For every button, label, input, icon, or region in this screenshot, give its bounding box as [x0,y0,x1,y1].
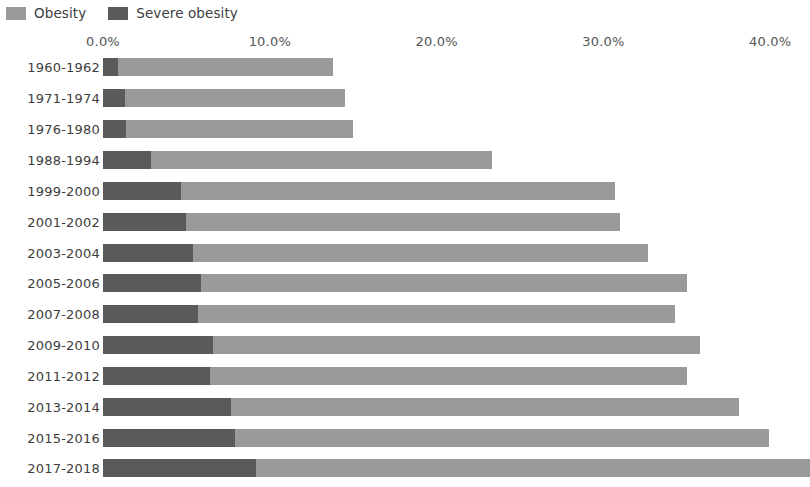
y-axis-category-label: 2013-2014 [27,399,100,414]
stacked-bar[interactable] [103,274,687,292]
y-axis-category-label: 1988-1994 [27,152,100,167]
legend-label: Obesity [34,5,86,21]
bar-segment-obesity[interactable] [103,151,492,169]
legend-entry[interactable]: Obesity [6,5,86,21]
chart-row: 2007-2008 [0,299,792,330]
x-axis-tick-label: 20.0% [415,34,457,49]
y-axis-category-label: 2017-2018 [27,461,100,476]
x-axis-tick-label: 40.0% [749,34,791,49]
chart-legend: ObesitySevere obesity [6,3,238,23]
stacked-bar[interactable] [103,305,675,323]
bar-segment-severe-obesity[interactable] [103,336,213,354]
y-axis-category-label: 2005-2006 [27,276,100,291]
y-axis-category-label: 2009-2010 [27,338,100,353]
legend-entry[interactable]: Severe obesity [108,5,238,21]
stacked-bar[interactable] [103,429,769,447]
stacked-bar[interactable] [103,151,492,169]
stacked-bar[interactable] [103,398,739,416]
chart-row: 2017-2018 [0,453,792,484]
bar-segment-severe-obesity[interactable] [103,398,231,416]
stacked-bar[interactable] [103,367,687,385]
y-axis-category-label: 1971-1974 [27,91,100,106]
chart-row: 2015-2016 [0,422,792,453]
legend-label: Severe obesity [136,5,238,21]
bar-segment-obesity[interactable] [103,89,345,107]
plot-area: 1960-19621971-19741976-19801988-19941999… [0,52,792,487]
chart-row: 1976-1980 [0,114,792,145]
bar-segment-severe-obesity[interactable] [103,120,126,138]
bar-segment-severe-obesity[interactable] [103,274,201,292]
chart-row: 1999-2000 [0,175,792,206]
y-axis-category-label: 2011-2012 [27,368,100,383]
bar-segment-severe-obesity[interactable] [103,182,181,200]
stacked-bar[interactable] [103,213,620,231]
chart-row: 2001-2002 [0,206,792,237]
bar-segment-severe-obesity[interactable] [103,89,125,107]
bar-segment-severe-obesity[interactable] [103,58,118,76]
stacked-bar[interactable] [103,89,345,107]
x-axis-tick-label: 10.0% [249,34,291,49]
chart-row: 2011-2012 [0,361,792,392]
x-axis-tick-label: 0.0% [86,34,120,49]
bar-segment-severe-obesity[interactable] [103,151,151,169]
chart-row: 1971-1974 [0,83,792,114]
stacked-bar[interactable] [103,336,700,354]
bar-segment-obesity[interactable] [103,58,333,76]
legend-swatch-icon [108,7,128,20]
chart-row: 1988-1994 [0,145,792,176]
bar-segment-severe-obesity[interactable] [103,244,193,262]
chart-row: 2005-2006 [0,268,792,299]
legend-swatch-icon [6,7,26,20]
y-axis-category-label: 1999-2000 [27,183,100,198]
stacked-bar[interactable] [103,244,648,262]
x-axis-tick-label: 30.0% [582,34,624,49]
bar-segment-severe-obesity[interactable] [103,429,235,447]
chart-row: 2013-2014 [0,391,792,422]
y-axis-category-label: 2003-2004 [27,245,100,260]
x-axis: 0.0%10.0%20.0%30.0%40.0% [0,34,792,52]
bar-segment-severe-obesity[interactable] [103,305,198,323]
chart-row: 1960-1962 [0,52,792,83]
chart-row: 2009-2010 [0,330,792,361]
bar-segment-severe-obesity[interactable] [103,459,256,477]
bar-segment-obesity[interactable] [103,120,353,138]
y-axis-category-label: 2007-2008 [27,307,100,322]
stacked-bar[interactable] [103,58,333,76]
bar-segment-severe-obesity[interactable] [103,213,186,231]
y-axis-category-label: 1976-1980 [27,122,100,137]
chart-row: 2003-2004 [0,237,792,268]
y-axis-category-label: 2001-2002 [27,214,100,229]
bar-segment-severe-obesity[interactable] [103,367,210,385]
stacked-bar[interactable] [103,182,615,200]
stacked-bar[interactable] [103,459,810,477]
y-axis-category-label: 2015-2016 [27,430,100,445]
y-axis-category-label: 1960-1962 [27,60,100,75]
stacked-bar[interactable] [103,120,353,138]
